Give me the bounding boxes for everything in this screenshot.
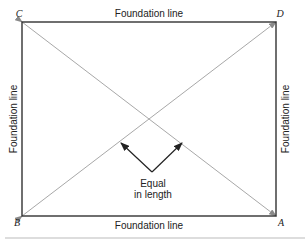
corner-label-a: A bbox=[277, 217, 285, 228]
foundation-diagram: C D B A Foundation line Foundation line … bbox=[0, 0, 305, 245]
annotation-in-length: in length bbox=[134, 189, 172, 200]
arrow-left-icon bbox=[121, 143, 152, 172]
equal-length-arrows bbox=[121, 143, 182, 172]
top-foundation-line-label: Foundation line bbox=[115, 8, 184, 19]
bottom-foundation-line-label: Foundation line bbox=[115, 220, 184, 231]
corner-label-c: C bbox=[16, 8, 23, 19]
annotation-equal: Equal bbox=[140, 178, 166, 189]
corner-label-b: B bbox=[14, 217, 20, 228]
arrow-right-icon bbox=[152, 143, 182, 172]
corner-label-d: D bbox=[275, 8, 284, 19]
right-foundation-line-label: Foundation line bbox=[280, 84, 291, 153]
left-foundation-line-label: Foundation line bbox=[8, 84, 19, 153]
